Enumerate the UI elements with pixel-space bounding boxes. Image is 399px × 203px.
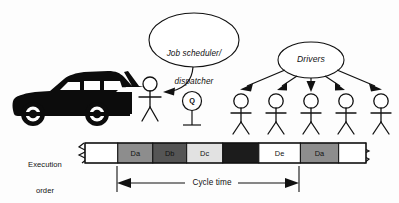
- bar-segment-label: De: [259, 150, 301, 157]
- bar-segment-label-layer: DaDbDcDeDa: [0, 0, 399, 203]
- bar-segment-label: Da: [118, 150, 153, 157]
- bar-segment-label: Db: [153, 150, 187, 157]
- bar-segment-label: Dc: [187, 150, 223, 157]
- diagram-canvas: Job scheduler/ dispatcher Drivers Q Exec…: [0, 0, 399, 203]
- bar-segment-label: Da: [300, 150, 338, 157]
